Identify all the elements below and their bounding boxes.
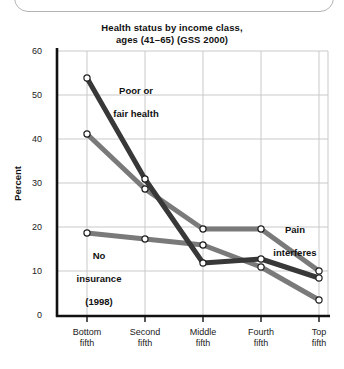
data-point bbox=[142, 186, 148, 192]
x-tick-top-fifth: Top fifth bbox=[291, 327, 344, 349]
y-tick-60: 60 bbox=[14, 46, 42, 56]
x-tick-line-1: Middle bbox=[175, 327, 231, 338]
y-tick-10: 10 bbox=[14, 266, 42, 276]
data-point bbox=[200, 242, 206, 248]
data-point bbox=[84, 230, 90, 236]
y-tick-30: 30 bbox=[14, 178, 42, 188]
annotation-line-2: interferes bbox=[255, 247, 335, 259]
annotation-line-2: fair health bbox=[96, 108, 176, 120]
x-tick-fourth-fifth: Fourth fifth bbox=[233, 327, 289, 349]
x-tick-bottom-fifth: Bottom fifth bbox=[59, 327, 115, 349]
y-tick-20: 20 bbox=[14, 222, 42, 232]
chart-figure: Health status by income class, ages (41–… bbox=[0, 0, 344, 369]
annotation-line-1: Pain bbox=[255, 224, 335, 236]
plot-area: Percent 60 50 40 30 20 10 0 bbox=[0, 0, 344, 369]
data-point bbox=[142, 236, 148, 242]
x-tick-line-1: Top bbox=[291, 327, 344, 338]
data-point bbox=[84, 75, 90, 81]
x-tick-line-2: fifth bbox=[291, 338, 344, 349]
x-tick-line-1: Fourth bbox=[233, 327, 289, 338]
annotation-poor-or-fair-health: Poor or fair health bbox=[96, 73, 176, 131]
y-tick-0: 0 bbox=[14, 310, 42, 320]
data-point bbox=[142, 176, 148, 182]
data-point bbox=[200, 260, 206, 266]
x-tick-line-2: fifth bbox=[175, 338, 231, 349]
data-point bbox=[84, 131, 90, 137]
data-point bbox=[316, 275, 322, 281]
x-tick-second-fifth: Second fifth bbox=[117, 327, 173, 349]
x-tick-line-1: Second bbox=[117, 327, 173, 338]
annotation-pain-interferes: Pain interferes bbox=[255, 212, 335, 270]
annotation-no-insurance: No insurance (1998) bbox=[60, 238, 138, 319]
y-tick-50: 50 bbox=[14, 90, 42, 100]
data-point bbox=[316, 297, 322, 303]
y-tick-40: 40 bbox=[14, 134, 42, 144]
x-tick-line-2: fifth bbox=[59, 338, 115, 349]
x-tick-line-2: fifth bbox=[233, 338, 289, 349]
annotation-line-3: (1998) bbox=[60, 296, 138, 308]
annotation-line-2: insurance bbox=[60, 273, 138, 285]
x-tick-middle-fifth: Middle fifth bbox=[175, 327, 231, 349]
annotation-line-1: Poor or bbox=[96, 85, 176, 97]
chart-svg bbox=[0, 0, 344, 369]
annotation-line-1: No bbox=[60, 250, 138, 262]
data-point bbox=[200, 226, 206, 232]
x-tick-line-2: fifth bbox=[117, 338, 173, 349]
x-tick-line-1: Bottom bbox=[59, 327, 115, 338]
